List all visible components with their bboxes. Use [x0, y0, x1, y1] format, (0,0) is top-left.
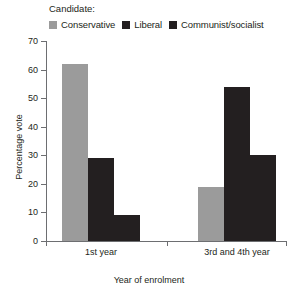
bar [62, 64, 88, 241]
legend-entry-communist-socialist: Communist/socialist [169, 19, 264, 30]
legend-label-liberal: Liberal [134, 19, 162, 30]
plot-area: 010203040506070 1st year3rd and 4th year [46, 41, 287, 241]
y-tick-label: 10 [28, 207, 38, 217]
bar [224, 87, 250, 241]
bar [88, 158, 114, 241]
legend-label-conservative: Conservative [61, 19, 115, 30]
y-tick-label: 70 [28, 36, 38, 46]
y-tick-label: 30 [28, 150, 38, 160]
legend-label-communist-socialist: Communist/socialist [181, 19, 264, 30]
bar-chart-figure: Candidate: Conservative Liberal Communis… [0, 0, 298, 294]
chart-legend: Conservative Liberal Communist/socialist [49, 19, 264, 30]
legend-title: Candidate: [49, 3, 95, 14]
bar [114, 215, 140, 241]
x-category-label: 3rd and 4th year [204, 247, 270, 257]
legend-swatch-communist-socialist [169, 21, 177, 29]
y-tick-label: 0 [33, 236, 38, 246]
x-axis-label: Year of enrolment [0, 275, 298, 285]
x-tick-mark [167, 241, 168, 246]
bar [198, 187, 224, 241]
x-tick-mark [286, 241, 287, 246]
y-axis-label: Percentage vote [14, 87, 24, 207]
legend-swatch-liberal [122, 21, 130, 29]
y-tick-label: 20 [28, 179, 38, 189]
bar [250, 155, 276, 241]
legend-entry-liberal: Liberal [122, 19, 162, 30]
x-category-label: 1st year [85, 247, 117, 257]
y-tick-label: 40 [28, 122, 38, 132]
y-tick-label: 50 [28, 93, 38, 103]
bar-group-container [46, 41, 287, 241]
legend-entry-conservative: Conservative [49, 19, 115, 30]
x-tick-mark [46, 241, 47, 246]
legend-swatch-conservative [49, 21, 57, 29]
y-tick-label: 60 [28, 65, 38, 75]
